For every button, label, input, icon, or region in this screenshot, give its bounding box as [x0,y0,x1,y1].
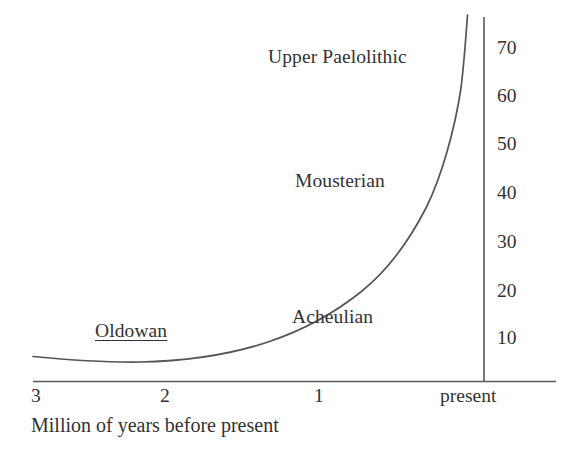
tool-complexity-curve [33,15,468,362]
y-tick-label-60: 60 [497,86,517,106]
x-axis-title: Million of years before present [31,415,279,435]
chart-figure: Upper Paelolithic Mousterian Acheulian O… [0,0,584,471]
y-tick-label-30: 30 [497,232,517,252]
y-tick-label-50: 50 [497,134,517,154]
x-tick-label-3: 3 [31,386,41,406]
y-tick-label-10: 10 [497,328,517,348]
y-tick-label-20: 20 [497,281,517,301]
annotation-oldowan: Oldowan [95,321,167,341]
annotation-upper-paelolithic: Upper Paelolithic [268,47,407,67]
x-tick-label-1: 1 [314,386,324,406]
y-tick-label-70: 70 [497,38,517,58]
x-tick-label-2: 2 [160,386,170,406]
x-tick-label-present: present [440,386,496,406]
y-tick-label-40: 40 [497,183,517,203]
annotation-mousterian: Mousterian [295,171,385,191]
annotation-acheulian: Acheulian [292,307,373,327]
